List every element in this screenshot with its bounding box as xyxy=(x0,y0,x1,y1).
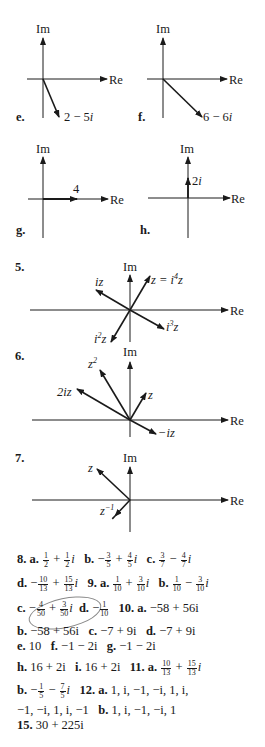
im-axis-label: Im xyxy=(156,22,170,36)
complex-plane-figures: Im Re e. 2 − 5i Im Re f. 6 − 6i Im Re g.… xyxy=(0,0,265,520)
answer-line-9c-10a: c. −450 + 350i d. −110 10. a. −58 + 56i xyxy=(17,601,199,618)
vector-label: z xyxy=(147,388,153,402)
part-label-f: f. xyxy=(138,110,145,124)
im-axis-label: Im xyxy=(36,142,50,156)
vector-label: 2i xyxy=(192,174,202,188)
part-label-g: g. xyxy=(16,223,25,237)
vector-label: i2z xyxy=(94,331,106,346)
problem-number-6: 6. xyxy=(15,349,24,363)
re-axis-label: Re xyxy=(231,192,245,206)
figure-7-tail xyxy=(0,520,265,540)
vector-label: z = i4z xyxy=(150,272,183,287)
re-axis-label: Re xyxy=(230,494,244,508)
answer-line-11b-12a: b. −15 − 75i 12. a. 1, i, −1, −i, 1, i, xyxy=(17,683,188,700)
problem-number-5: 5. xyxy=(15,260,24,274)
im-axis-label: Im xyxy=(123,345,137,359)
answer-line-15: 15. 30 + 225i xyxy=(17,718,84,732)
re-axis-label: Re xyxy=(230,414,244,428)
part-label-h: h. xyxy=(140,223,150,237)
vector-label: iz xyxy=(95,275,103,289)
problem-number-7: 7. xyxy=(15,451,24,465)
answer-line-8d-9: d. −1013 + 1513i 9. a. 110 + 310i b. 110… xyxy=(17,576,209,593)
vector-label: 6 − 6i xyxy=(203,110,233,124)
im-axis-label: Im xyxy=(180,142,194,156)
re-axis-label: Re xyxy=(110,193,124,207)
im-axis-label: Im xyxy=(36,22,50,36)
vector-label: i3z xyxy=(166,319,178,334)
vector-label: 2iz xyxy=(57,385,72,399)
answer-line-8: 8. a. 12 + 12i b. −35 + 45i c. 37 − 47i xyxy=(17,552,191,569)
im-axis-label: Im xyxy=(123,451,137,465)
vector-label: z xyxy=(87,461,93,475)
re-axis-label: Re xyxy=(109,73,123,87)
vector-label: 4 xyxy=(73,182,80,196)
vector-label: −iz xyxy=(158,426,175,440)
im-axis-label: Im xyxy=(123,260,137,274)
answer-line-10b-d: b. −58 + 56i c. −7 + 9i d. −7 + 9i xyxy=(17,624,195,638)
vector-label: z−1 xyxy=(99,503,114,518)
re-axis-label: Re xyxy=(230,304,244,318)
answer-line-12a-cont: −1, −i, 1, i, −1 b. 1, i, −1, −i, 1 xyxy=(17,703,176,717)
vector-label: z2 xyxy=(87,356,97,371)
re-axis-label: Re xyxy=(229,73,243,87)
vector-label: 2 − 5i xyxy=(64,110,94,124)
part-label-e: e. xyxy=(16,110,25,124)
answer-line-10e-g: e. 10 f. −1 − 2i g. −1 − 2i xyxy=(17,639,156,653)
answer-line-10h-11a: h. 16 + 2i i. 16 + 2i 11. a. 1013 + 1513… xyxy=(17,660,201,677)
